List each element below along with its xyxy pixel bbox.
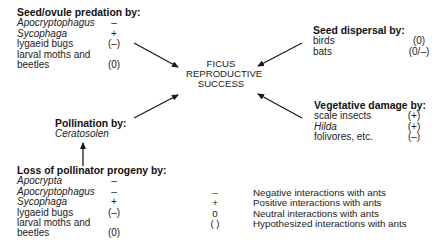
- interaction-symbol: (–): [101, 39, 127, 49]
- legend-symbol: ( ): [208, 219, 222, 229]
- seed-dispersal-block: Seed dispersal by: birds (0) bats (0/–): [313, 26, 433, 57]
- ficus-reproductive-success: FICUS REPRODUCTIVE SUCCESS: [186, 59, 256, 90]
- interaction-symbol: (0/–): [405, 47, 433, 57]
- organism-name: folivores, etc.: [314, 132, 373, 142]
- organism-name: beetles: [17, 228, 49, 238]
- interaction-symbol: (–): [101, 208, 127, 218]
- list-item: beetles (0): [17, 60, 127, 70]
- vegetative-damage-block: Vegetative damage by: scale insects (+) …: [314, 101, 429, 143]
- pollination-block: Pollination by: Ceratosolen: [55, 119, 135, 140]
- interaction-symbol: (–): [402, 132, 426, 142]
- list-item: Ceratosolen: [55, 129, 135, 139]
- organism-name: Ceratosolen: [55, 129, 109, 139]
- arrow-pollination: [134, 95, 178, 118]
- list-item: bats (0/–): [313, 47, 433, 57]
- arrow-seed-dispersal: [258, 43, 302, 66]
- list-item: beetles (0): [17, 228, 167, 238]
- arrow-vegetative-damage: [258, 94, 302, 118]
- organism-name: beetles: [17, 60, 49, 70]
- pollinator-loss-block: Loss of pollinator progeny by: Apocrypta…: [17, 166, 167, 239]
- organism-name: bats: [313, 47, 332, 57]
- list-item: folivores, etc. (–): [314, 132, 429, 142]
- interaction-symbol: (0): [101, 60, 127, 70]
- interaction-symbol: (0): [101, 228, 127, 238]
- legend-text: Hypothesized interactions with ants: [253, 219, 407, 229]
- arrow-seed-predation: [134, 43, 178, 67]
- center-line: SUCCESS: [186, 79, 256, 89]
- seed-predation-block: Seed/ovule predation by: Apocryptophagus…: [17, 8, 127, 70]
